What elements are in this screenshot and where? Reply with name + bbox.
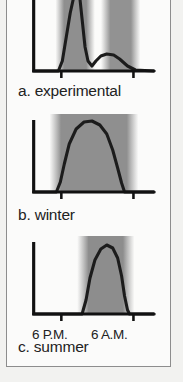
figure-panel-group: a. experimental	[0, 0, 183, 382]
figure-frame: a. experimental	[6, 0, 171, 367]
plot-area-summer	[7, 234, 170, 326]
activity-curve-experimental	[7, 0, 170, 79]
panel-caption-experimental: a. experimental	[18, 82, 121, 100]
plot-area-winter	[7, 112, 170, 204]
panel-caption-summer: c. summer	[18, 338, 89, 356]
activity-curve-winter	[7, 112, 170, 204]
dark-band-icon	[49, 114, 138, 192]
activity-curve-summer	[7, 234, 170, 326]
tick-label-morning: 6 A.M.	[91, 327, 127, 342]
plot-area-experimental	[7, 0, 170, 79]
panel-experimental: a. experimental	[7, 0, 170, 110]
panel-winter: b. winter	[7, 110, 170, 232]
panel-caption-winter: b. winter	[18, 206, 75, 224]
panel-summer: 6 P.M. 6 A.M. c. summer	[7, 232, 170, 364]
